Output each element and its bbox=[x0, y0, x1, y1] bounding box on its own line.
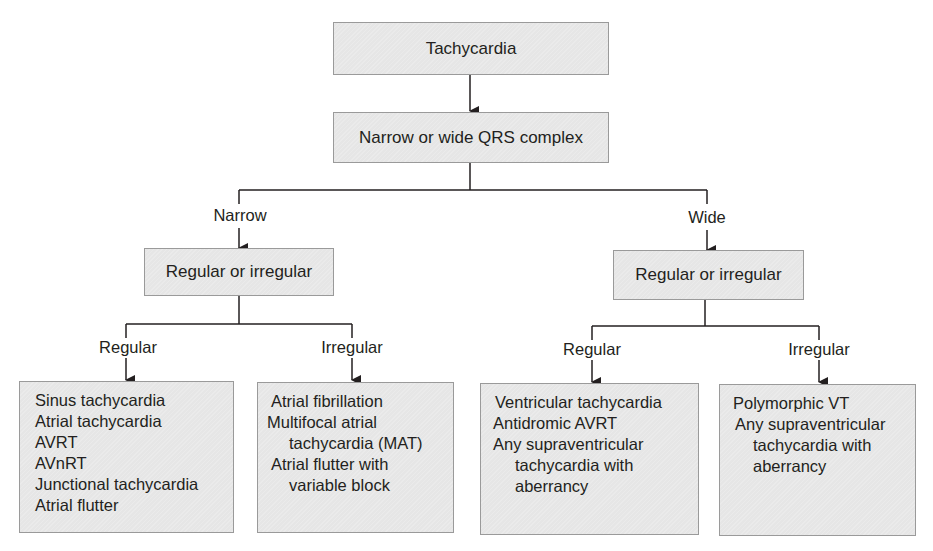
diagnosis-item: Sinus tachycardia bbox=[35, 390, 233, 411]
tachycardia-label: Tachycardia bbox=[426, 39, 517, 59]
narrow-regular-branch-label: Regular bbox=[99, 338, 157, 357]
narrow-regularity-node: Regular or irregular bbox=[144, 248, 334, 296]
diagnosis-item: tachycardia (MAT) bbox=[267, 433, 453, 454]
diagnosis-item: Multifocal atrial bbox=[267, 412, 453, 433]
qrs-complex-node: Narrow or wide QRS complex bbox=[333, 112, 609, 163]
diagnosis-item: Antidromic AVRT bbox=[493, 413, 698, 434]
diagnosis-item: Atrial flutter with bbox=[267, 454, 453, 475]
wide-regularity-label: Regular or irregular bbox=[635, 265, 781, 285]
diagnosis-item: AVRT bbox=[35, 432, 233, 453]
qrs-complex-label: Narrow or wide QRS complex bbox=[359, 128, 583, 148]
tachycardia-node: Tachycardia bbox=[333, 22, 609, 75]
narrow-branch-label: Narrow bbox=[213, 206, 266, 225]
wide-regular-diagnoses: Ventricular tachycardia Antidromic AVRT … bbox=[480, 383, 699, 535]
diagnosis-item: variable block bbox=[267, 475, 453, 496]
narrow-irregular-branch-label: Irregular bbox=[321, 338, 382, 357]
diagnosis-item: Atrial fibrillation bbox=[267, 391, 453, 412]
diagnosis-item: Any supraventricular bbox=[733, 414, 915, 435]
diagnosis-item: Polymorphic VT bbox=[733, 393, 915, 414]
wide-branch-label: Wide bbox=[688, 208, 726, 227]
wide-irregular-diagnoses: Polymorphic VT Any supraventricular tach… bbox=[719, 384, 916, 536]
diagnosis-item: AVnRT bbox=[35, 453, 233, 474]
diagnosis-item: Ventricular tachycardia bbox=[493, 392, 698, 413]
wide-regularity-node: Regular or irregular bbox=[613, 250, 804, 300]
narrow-regular-diagnoses: Sinus tachycardia Atrial tachycardia AVR… bbox=[19, 381, 234, 533]
diagnosis-item: aberrancy bbox=[733, 456, 915, 477]
narrow-regularity-label: Regular or irregular bbox=[166, 262, 312, 282]
wide-irregular-branch-label: Irregular bbox=[788, 340, 849, 359]
diagnosis-item: Junctional tachycardia bbox=[35, 474, 233, 495]
diagnosis-item: Atrial flutter bbox=[35, 495, 233, 516]
diagnosis-item: Any supraventricular bbox=[493, 434, 698, 455]
diagnosis-item: aberrancy bbox=[493, 476, 698, 497]
diagnosis-item: tachycardia with bbox=[493, 455, 698, 476]
wide-regular-branch-label: Regular bbox=[563, 340, 621, 359]
diagnosis-item: tachycardia with bbox=[733, 435, 915, 456]
diagnosis-item: Atrial tachycardia bbox=[35, 411, 233, 432]
narrow-irregular-diagnoses: Atrial fibrillation Multifocal atrial ta… bbox=[257, 382, 454, 533]
